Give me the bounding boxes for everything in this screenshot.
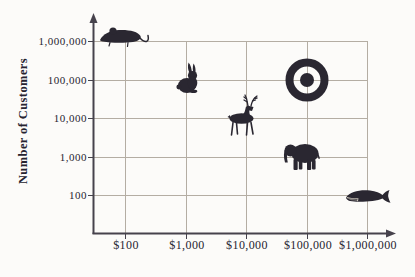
x-tick-1000000: $1,000,000 xyxy=(328,239,408,252)
mouse-icon xyxy=(98,25,150,49)
elephant-icon xyxy=(283,140,321,172)
y-tick-1000000: 1,000,000 xyxy=(27,35,87,47)
y-tick-100: 100 xyxy=(27,189,87,201)
y-tick-100000: 100,000 xyxy=(27,74,87,86)
rabbit-icon xyxy=(176,61,202,93)
target-icon xyxy=(284,57,330,103)
y-tick-10000: 10,000 xyxy=(27,112,87,124)
whale-icon xyxy=(345,186,391,206)
customers-vs-price-chart: Number of Customers 1,000,000 100,000 10… xyxy=(0,0,415,277)
deer-icon xyxy=(226,94,264,136)
y-tick-1000: 1,000 xyxy=(27,151,87,163)
